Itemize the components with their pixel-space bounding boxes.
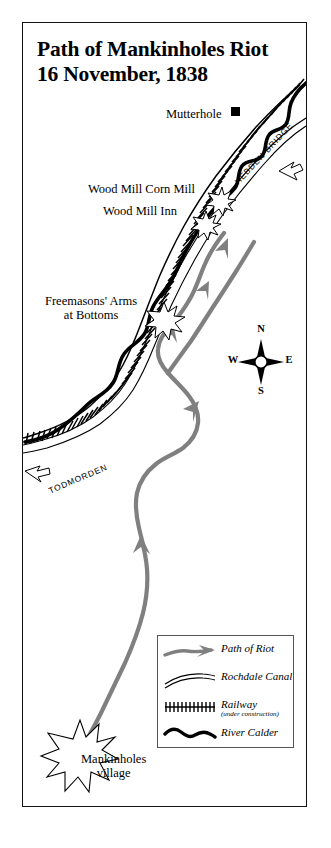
legend-item-rochdale-canal: Rochdale Canal [158,666,293,694]
compass-label-south: S [255,385,267,396]
label-freemasons-line2: at Bottoms [45,309,137,323]
legend-label-path-of-riot: Path of Riot [221,642,274,654]
legend-item-railway: Railway (under construction) [158,694,293,722]
compass-label-east: E [283,354,295,365]
label-freemasons-line1: Freemasons' Arms [45,294,137,308]
legend-item-river-calder: River Calder [158,722,293,750]
legend-item-path-of-riot: Path of Riot [158,638,293,666]
canal-symbol-icon [163,666,217,694]
label-freemasons-arms: Freemasons' Arms at Bottoms [45,295,137,322]
legend-label-railway: Railway [221,698,257,710]
compass-label-west: W [227,354,239,365]
map-legend: Path of Riot Rochdale Canal [157,635,294,748]
river-symbol-icon [163,722,217,750]
legend-sublabel-railway: (under construction) [221,710,279,718]
label-wood-mill-corn-mill: Wood Mill Corn Mill [88,183,195,197]
label-mankinholes-line2: village [81,767,146,781]
map-frame: Path of Mankinholes Riot 16 November, 18… [22,22,307,807]
riot-path-symbol-icon [163,638,217,666]
legend-label-rochdale-canal: Rochdale Canal [221,670,292,682]
mutterhole-marker [231,107,240,116]
todmorden-arrow-icon [25,466,50,482]
hebden-bridge-arrow-icon [279,162,303,180]
compass-label-north: N [255,323,267,334]
label-mutterhole: Mutterhole [166,108,222,122]
rochdale-canal-lines [23,118,306,453]
railway-symbol-icon [163,694,217,722]
label-mankinholes-line1: Mankinholes [81,752,146,766]
compass-rose: N S W E [226,323,296,401]
legend-label-river-calder: River Calder [221,726,278,738]
label-mankinholes-village: Mankinholes village [81,753,146,780]
label-wood-mill-inn: Wood Mill Inn [103,205,177,219]
